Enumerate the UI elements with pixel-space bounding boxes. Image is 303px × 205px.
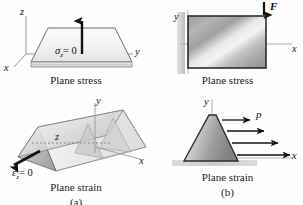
axis-label-y: y bbox=[96, 95, 101, 106]
panel-plane-stress-3d: z x y σz= 0 Plane stress bbox=[0, 0, 152, 95]
axis-label-x: x bbox=[292, 150, 297, 161]
axis-label-x: x bbox=[139, 155, 144, 166]
dam-cross-section bbox=[184, 115, 238, 161]
caption-plane-strain-3d: Plane strain bbox=[0, 181, 152, 193]
panel-plane-strain-2d: y x p Plane strain (b) bbox=[152, 95, 303, 205]
panel-plane-strain-3d: y x z εz= 0 Plane strain (a) bbox=[0, 95, 152, 205]
sublabel-a: (a) bbox=[0, 196, 152, 205]
pressure-label-p: p bbox=[256, 108, 262, 120]
caption-plane-strain-2d: Plane strain bbox=[152, 171, 303, 183]
axis-label-x: x bbox=[4, 62, 9, 73]
axis-label-x: x bbox=[292, 43, 297, 54]
epsilon-equals: = 0 bbox=[19, 167, 33, 178]
axis-x-line bbox=[14, 54, 26, 67]
sigma-z-annotation: σz= 0 bbox=[55, 45, 77, 59]
caption-plane-stress-3d: Plane stress bbox=[0, 74, 152, 86]
sigma-equals: = 0 bbox=[63, 45, 77, 56]
axis-label-z: z bbox=[55, 131, 59, 142]
axis-label-z: z bbox=[20, 6, 24, 17]
figure-root: z x y σz= 0 Plane stress bbox=[0, 0, 303, 205]
force-label-F: F bbox=[270, 0, 277, 12]
caption-plane-stress-2d: Plane stress bbox=[152, 74, 303, 86]
axis-label-y: y bbox=[204, 96, 209, 107]
plate-rect bbox=[188, 16, 266, 68]
panel-plane-stress-2d: y x F Plane stress bbox=[152, 0, 303, 95]
axis-label-y: y bbox=[135, 46, 140, 57]
axis-label-y: y bbox=[174, 11, 179, 22]
epsilon-z-annotation: εz= 0 bbox=[12, 167, 33, 181]
sublabel-b: (b) bbox=[152, 186, 303, 198]
